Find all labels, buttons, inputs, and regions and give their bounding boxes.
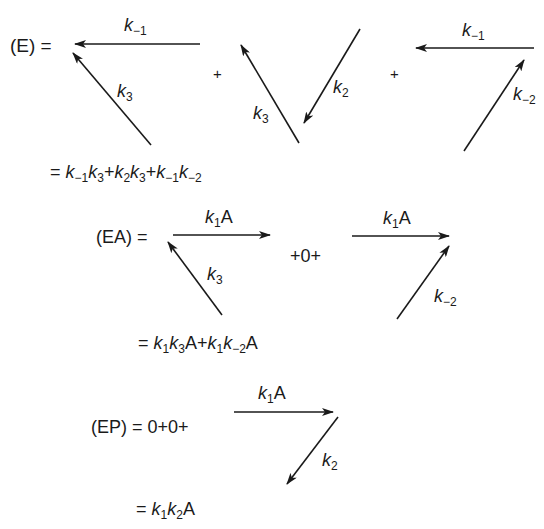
k-symbol: k xyxy=(333,77,342,97)
E-plus-1: + xyxy=(213,66,222,81)
A-symbol: A xyxy=(183,499,195,519)
label-EP-k1A: k1A xyxy=(258,384,286,402)
k-symbol: k xyxy=(117,81,126,101)
k-symbol: k xyxy=(253,103,262,123)
arrow-EA-p2-k-2 xyxy=(397,246,449,319)
k-symbol: k xyxy=(322,450,331,470)
k-symbol: k xyxy=(434,286,443,306)
k-symbol: k xyxy=(169,333,178,353)
E-plus-2: + xyxy=(390,66,399,81)
A-symbol: A xyxy=(185,333,197,353)
subscript: 3 xyxy=(97,171,104,185)
subscript: 2 xyxy=(176,508,183,522)
plus: + xyxy=(104,162,115,182)
k-symbol: k xyxy=(88,162,97,182)
equals: = xyxy=(50,162,61,182)
subscript: −1 xyxy=(75,171,89,185)
arrow-E-p2-k2 xyxy=(304,29,360,123)
k-symbol: k xyxy=(258,383,267,403)
label-EA-p1-k1A: k1A xyxy=(205,208,233,226)
k-symbol: k xyxy=(152,499,161,519)
subscript: −2 xyxy=(188,171,202,185)
k-symbol: k xyxy=(130,162,139,182)
subscript: −2 xyxy=(522,93,536,107)
label-E-p3-k-2: k−2 xyxy=(513,85,536,103)
subscript: 1 xyxy=(267,392,274,406)
k-symbol: k xyxy=(154,333,163,353)
A-symbol: A xyxy=(274,383,286,403)
subscript: 2 xyxy=(342,86,349,100)
equals: = xyxy=(136,499,147,519)
arrow-layer xyxy=(0,0,544,529)
label-EP-k2: k2 xyxy=(322,451,338,469)
k-symbol: k xyxy=(207,264,216,284)
E-result: = k−1k3+k2k3+k−1k−2 xyxy=(50,163,202,181)
plus: + xyxy=(197,333,208,353)
EP-lhs: (EP) = 0+0+ xyxy=(91,418,189,436)
k-symbol: k xyxy=(223,333,232,353)
subscript: 2 xyxy=(331,459,338,473)
A-symbol: A xyxy=(399,208,411,228)
label-E-p1-k3: k3 xyxy=(117,82,133,100)
EA-lhs: (EA) = xyxy=(96,228,148,246)
k-symbol: k xyxy=(167,499,176,519)
A-symbol: A xyxy=(246,333,258,353)
subscript: 3 xyxy=(262,112,269,126)
k-symbol: k xyxy=(66,162,75,182)
k-symbol: k xyxy=(513,84,522,104)
label-E-p2-k3: k3 xyxy=(253,104,269,122)
subscript: −2 xyxy=(232,342,246,356)
arrow-E-p1-k3 xyxy=(73,53,151,145)
subscript: −2 xyxy=(443,295,457,309)
subscript: −1 xyxy=(133,24,147,38)
subscript: 3 xyxy=(178,342,185,356)
plus: + xyxy=(146,162,157,182)
label-E-p3-k-1: k−1 xyxy=(462,21,485,39)
label-EA-p2-k1A: k1A xyxy=(383,209,411,227)
k-symbol: k xyxy=(205,207,214,227)
label-E-p2-k2: k2 xyxy=(333,78,349,96)
subscript: 3 xyxy=(139,171,146,185)
arrow-E-p3-k-2 xyxy=(464,60,524,151)
EA-middle-zero: +0+ xyxy=(290,247,321,265)
subscript: 3 xyxy=(216,273,223,287)
A-symbol: A xyxy=(221,207,233,227)
label-E-p1-k-1: k−1 xyxy=(124,16,147,34)
subscript: 1 xyxy=(392,217,399,231)
equals: = xyxy=(138,333,149,353)
k-symbol: k xyxy=(124,15,133,35)
EA-result: = k1k3A+k1k−2A xyxy=(138,334,258,352)
subscript: 1 xyxy=(214,216,221,230)
label-EA-p1-k3: k3 xyxy=(207,265,223,283)
k-symbol: k xyxy=(383,208,392,228)
arrow-E-p2-k3 xyxy=(241,45,299,143)
E-lhs: (E) = xyxy=(10,36,52,55)
subscript: −1 xyxy=(471,29,485,43)
subscript: −1 xyxy=(165,171,179,185)
subscript: 3 xyxy=(126,90,133,104)
k-symbol: k xyxy=(462,20,471,40)
EP-result: = k1k2A xyxy=(136,500,195,518)
label-EA-p2-k-2: k−2 xyxy=(434,287,457,305)
k-symbol: k xyxy=(156,162,165,182)
k-symbol: k xyxy=(179,162,188,182)
